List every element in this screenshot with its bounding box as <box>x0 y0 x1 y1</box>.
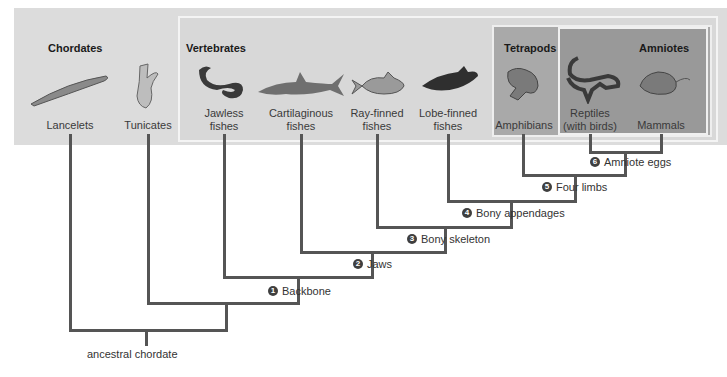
number-badge: 1 <box>268 286 278 296</box>
branch-lobefinned <box>447 134 450 203</box>
number-badge: 2 <box>353 259 363 269</box>
taxon-ray-finned-fishes: Ray-finnedfishes <box>350 107 403 133</box>
taxon-tunicates: Tunicates <box>124 119 171 132</box>
tetrapods-title: Tetrapods <box>504 42 556 54</box>
branch-amphibians <box>522 134 525 177</box>
mouse-icon <box>636 66 692 100</box>
taxon-cartilaginous-fishes: Cartilaginousfishes <box>269 107 333 133</box>
number-badge: 5 <box>542 182 552 192</box>
coelacanth-icon <box>418 64 480 102</box>
taxon-label: Mammals <box>637 119 685 132</box>
root-label: ancestral chordate <box>87 348 178 360</box>
trait-label: Amniote eggs <box>604 156 671 168</box>
taxon-label: Lancelets <box>46 119 93 132</box>
lamprey-icon <box>195 64 247 102</box>
branch-rayfinned <box>376 134 379 229</box>
trait-bony-appendages: 4Bony appendages <box>462 207 565 219</box>
trait-label: Bony appendages <box>476 207 565 219</box>
stem-root <box>145 329 148 346</box>
branch-cartilaginous <box>300 134 303 254</box>
node-root <box>69 329 228 332</box>
trait-label: Jaws <box>367 258 392 270</box>
taxon-label: Jawless <box>204 107 243 120</box>
tunicate-icon <box>132 62 162 112</box>
taxon-reptiles: Reptiles(with birds) <box>563 107 617 133</box>
lancelet-icon <box>28 72 110 108</box>
shark-icon <box>256 70 346 100</box>
taxon-label: Cartilaginous <box>269 107 333 120</box>
trait-amniote-eggs: 6Amniote eggs <box>590 156 671 168</box>
taxon-label: fishes <box>204 120 243 133</box>
frog-icon <box>502 62 544 104</box>
taxon-label: fishes <box>350 120 403 133</box>
taxon-label: Ray-finned <box>350 107 403 120</box>
trait-label: Bony skeleton <box>421 233 490 245</box>
trait-four-limbs: 5Four limbs <box>542 181 607 193</box>
number-badge: 6 <box>590 157 600 167</box>
vertebrates-title: Vertebrates <box>186 42 246 54</box>
taxon-label: Lobe-finned <box>419 107 477 120</box>
taxon-label: fishes <box>269 120 333 133</box>
trait-label: Four limbs <box>556 181 607 193</box>
taxon-label: Reptiles <box>563 107 617 120</box>
perch-icon <box>350 68 406 102</box>
trait-jaws: 2Jaws <box>353 258 392 270</box>
trait-label: Backbone <box>282 285 331 297</box>
taxon-label: Tunicates <box>124 119 171 132</box>
taxon-label: Amphibians <box>495 119 552 132</box>
number-badge: 4 <box>462 208 472 218</box>
trait-backbone: 1Backbone <box>268 285 331 297</box>
number-badge: 3 <box>407 234 417 244</box>
chordates-title: Chordates <box>48 42 102 54</box>
taxon-lancelets: Lancelets <box>46 119 93 132</box>
branch-lancelets <box>69 134 72 332</box>
taxon-label: (with birds) <box>563 120 617 133</box>
stem-olfactores <box>225 302 228 332</box>
lizard-icon <box>562 54 624 104</box>
taxon-lobe-finned-fishes: Lobe-finnedfishes <box>419 107 477 133</box>
trait-bony-skeleton: 3Bony skeleton <box>407 233 490 245</box>
branch-jawless <box>223 134 226 279</box>
taxon-label: fishes <box>419 120 477 133</box>
branch-tunicates <box>147 134 150 305</box>
amniotes-title: Amniotes <box>639 42 689 54</box>
node-olfactores <box>147 302 300 305</box>
taxon-mammals: Mammals <box>637 119 685 132</box>
taxon-amphibians: Amphibians <box>495 119 552 132</box>
taxon-jawless-fishes: Jawlessfishes <box>204 107 243 133</box>
